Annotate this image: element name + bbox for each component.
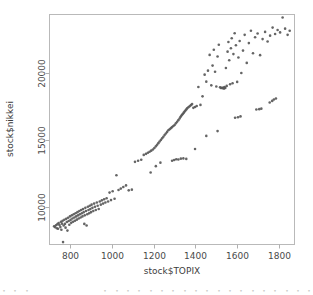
data-point	[254, 36, 257, 39]
data-point	[226, 50, 229, 53]
scatter-plot: 80010001200140016001800 100001500020000 …	[0, 0, 313, 295]
data-point	[284, 27, 287, 30]
data-point	[97, 208, 100, 211]
data-point	[239, 115, 242, 118]
data-point	[250, 30, 253, 33]
data-point	[182, 157, 185, 160]
data-point	[275, 97, 278, 100]
data-point	[260, 107, 263, 110]
data-point	[276, 29, 279, 32]
data-point	[111, 190, 114, 193]
data-point	[242, 49, 245, 52]
data-point	[102, 202, 105, 205]
data-point	[225, 67, 228, 70]
data-point	[237, 56, 240, 59]
data-point	[231, 82, 234, 85]
data-point	[82, 208, 85, 211]
data-point	[85, 210, 88, 213]
data-point	[66, 229, 69, 232]
data-point	[142, 154, 145, 157]
y-axis-tick-labels: 100001500020000	[37, 59, 47, 222]
data-point	[92, 210, 95, 213]
data-point	[57, 227, 60, 230]
x-tick-label: 1600	[226, 251, 249, 261]
data-point	[159, 161, 162, 164]
data-point	[218, 43, 221, 46]
data-point	[205, 80, 208, 83]
data-point	[82, 211, 85, 214]
data-point	[81, 215, 84, 218]
data-point	[208, 54, 211, 57]
y-axis-title: stock$nikkei	[5, 101, 15, 157]
data-point	[225, 85, 228, 88]
data-point	[122, 186, 125, 189]
data-point	[59, 226, 62, 229]
data-point	[134, 161, 137, 164]
data-point	[245, 62, 248, 65]
data-point	[210, 84, 213, 87]
data-point	[101, 199, 104, 202]
data-point	[238, 40, 241, 43]
x-tick-label: 1000	[101, 251, 124, 261]
x-tick-label: 800	[62, 251, 79, 261]
data-point	[94, 209, 97, 212]
data-point	[233, 32, 236, 35]
data-point	[125, 184, 128, 187]
data-point	[207, 69, 210, 72]
data-point	[271, 26, 274, 29]
data-point	[84, 207, 87, 210]
data-point	[137, 159, 140, 162]
data-point	[110, 199, 113, 202]
data-point	[177, 158, 180, 161]
data-point	[180, 157, 183, 160]
data-point	[113, 197, 116, 200]
y-tick-label: 15000	[37, 126, 47, 155]
data-point	[281, 16, 284, 19]
data-point	[96, 204, 99, 207]
data-point	[96, 201, 99, 204]
data-point	[215, 85, 218, 88]
data-point	[256, 32, 259, 35]
y-tick-label: 10000	[37, 193, 47, 222]
data-point	[140, 158, 143, 161]
data-point	[288, 30, 291, 33]
data-point	[279, 31, 282, 34]
data-point	[228, 59, 231, 62]
data-point	[227, 41, 230, 44]
data-point	[105, 197, 108, 200]
data-point	[90, 203, 93, 206]
data-point	[216, 55, 219, 58]
data-point	[90, 211, 93, 214]
data-point	[235, 44, 238, 47]
data-point	[191, 103, 194, 106]
data-point	[274, 33, 277, 36]
data-point	[243, 34, 246, 37]
data-point	[99, 203, 102, 206]
data-point	[199, 104, 202, 107]
chart-figure: 80010001200140016001800 100001500020000 …	[0, 0, 313, 295]
x-tick-label: 1200	[143, 251, 166, 261]
data-point	[155, 165, 158, 168]
data-point	[93, 202, 96, 205]
data-point	[216, 130, 219, 133]
data-point	[234, 116, 237, 119]
data-point	[197, 86, 200, 89]
bottom-cutoff-text: ・ ・ ・ ・ ・ ・ ・ ・ ・ ・ ・ ・ ・ ・ ・ ・ ・ ・ ・ ・ …	[0, 288, 313, 295]
data-point	[230, 47, 233, 50]
data-point	[237, 116, 240, 119]
data-point	[266, 40, 269, 43]
data-point	[268, 101, 271, 104]
data-point	[60, 228, 63, 231]
data-point	[83, 214, 86, 217]
data-point	[213, 49, 216, 52]
x-tick-label: 1400	[184, 251, 207, 261]
data-point	[269, 34, 272, 37]
data-point	[203, 73, 206, 76]
data-point	[286, 34, 289, 37]
data-point	[252, 52, 255, 55]
data-point	[194, 148, 197, 151]
y-tick-label: 20000	[37, 59, 47, 88]
data-point	[62, 241, 65, 244]
data-point	[232, 53, 235, 56]
data-point	[236, 81, 239, 84]
